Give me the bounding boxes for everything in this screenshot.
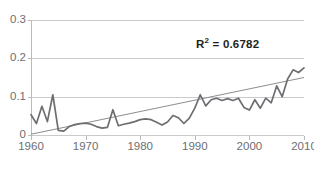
chart-container: 00.10.20.3 196019701980199020002010 R2 =…	[0, 0, 314, 169]
x-tick-label: 1970	[66, 141, 106, 153]
observed-series-line	[31, 68, 304, 131]
y-tick-label: 0.1	[0, 91, 26, 103]
plot-area	[31, 20, 304, 135]
chart-title	[0, 0, 314, 2]
y-tick-label: 0.3	[0, 14, 26, 26]
y-tick-label: 0	[0, 129, 26, 141]
x-tick-label: 1960	[11, 141, 51, 153]
r-squared-annotation: R2 = 0.6782	[196, 38, 259, 50]
gridline	[31, 135, 304, 136]
y-tick-label: 0.2	[0, 52, 26, 64]
x-tick-label: 1980	[120, 141, 160, 153]
x-tick-label: 2010	[284, 141, 314, 153]
data-series-layer	[31, 20, 304, 135]
x-tick-label: 1990	[175, 141, 215, 153]
x-tick-label: 2000	[229, 141, 269, 153]
